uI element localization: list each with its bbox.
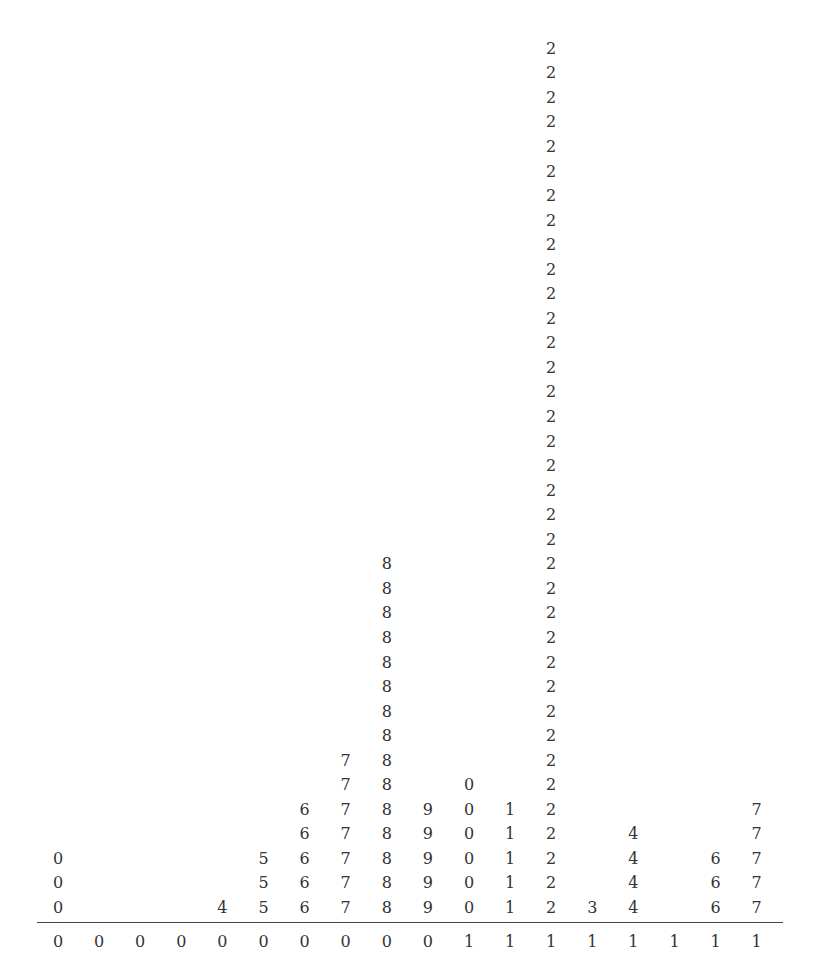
leaf-digit: 2 <box>536 162 566 182</box>
leaf-digit: 8 <box>372 677 402 697</box>
leaf-digit: 8 <box>372 873 402 893</box>
leaf-digit: 8 <box>372 849 402 869</box>
leaf-digit: 6 <box>290 898 320 918</box>
leaf-digit: 8 <box>372 775 402 795</box>
leaf-digit: 8 <box>372 628 402 648</box>
leaf-digit: 7 <box>742 898 772 918</box>
axis-stem-label: 0 <box>372 932 402 952</box>
leaf-digit: 2 <box>536 603 566 623</box>
leaf-digit: 9 <box>413 800 443 820</box>
leaf-digit: 2 <box>536 456 566 476</box>
leaf-digit: 6 <box>701 849 731 869</box>
leaf-digit: 2 <box>536 39 566 59</box>
axis-stem-label: 1 <box>742 932 772 952</box>
leaf-digit: 9 <box>413 849 443 869</box>
axis-stem-label: 0 <box>207 932 237 952</box>
leaf-digit: 5 <box>249 898 279 918</box>
leaf-digit: 0 <box>454 775 484 795</box>
leaf-digit: 2 <box>536 137 566 157</box>
leaf-digit: 0 <box>43 873 73 893</box>
leaf-digit: 2 <box>536 260 566 280</box>
leaf-digit: 7 <box>331 824 361 844</box>
leaf-digit: 4 <box>207 898 237 918</box>
leaf-digit: 1 <box>495 873 525 893</box>
leaf-digit: 4 <box>618 824 648 844</box>
axis-stem-label: 1 <box>701 932 731 952</box>
leaf-digit: 8 <box>372 800 402 820</box>
axis-stem-label: 1 <box>536 932 566 952</box>
leaf-digit: 5 <box>249 849 279 869</box>
leaf-digit: 3 <box>577 898 607 918</box>
leaf-digit: 2 <box>536 505 566 525</box>
leaf-digit: 2 <box>536 407 566 427</box>
leaf-digit: 2 <box>536 309 566 329</box>
axis-stem-label: 0 <box>166 932 196 952</box>
stacked-digit-plot: 0000000405550666660777777708888888888888… <box>0 0 820 980</box>
axis-stem-label: 1 <box>660 932 690 952</box>
leaf-digit: 1 <box>495 898 525 918</box>
leaf-digit: 4 <box>618 898 648 918</box>
leaf-digit: 2 <box>536 702 566 722</box>
leaf-digit: 6 <box>290 800 320 820</box>
leaf-digit: 4 <box>618 849 648 869</box>
leaf-digit: 2 <box>536 186 566 206</box>
leaf-digit: 6 <box>701 898 731 918</box>
leaf-digit: 4 <box>618 873 648 893</box>
leaf-digit: 6 <box>290 824 320 844</box>
axis-stem-label: 0 <box>413 932 443 952</box>
leaf-digit: 2 <box>536 579 566 599</box>
leaf-digit: 2 <box>536 63 566 83</box>
leaf-digit: 2 <box>536 211 566 231</box>
leaf-digit: 1 <box>495 849 525 869</box>
axis-stem-label: 0 <box>125 932 155 952</box>
axis-stem-label: 1 <box>577 932 607 952</box>
leaf-digit: 2 <box>536 554 566 574</box>
leaf-digit: 2 <box>536 775 566 795</box>
axis-stem-label: 0 <box>43 932 73 952</box>
leaf-digit: 8 <box>372 824 402 844</box>
leaf-digit: 9 <box>413 873 443 893</box>
leaf-digit: 2 <box>536 677 566 697</box>
leaf-digit: 2 <box>536 726 566 746</box>
leaf-digit: 0 <box>43 898 73 918</box>
axis-stem-label: 0 <box>290 932 320 952</box>
leaf-digit: 2 <box>536 88 566 108</box>
leaf-digit: 0 <box>454 898 484 918</box>
leaf-digit: 2 <box>536 898 566 918</box>
leaf-digit: 8 <box>372 898 402 918</box>
leaf-digit: 2 <box>536 333 566 353</box>
leaf-digit: 6 <box>290 873 320 893</box>
leaf-digit: 8 <box>372 603 402 623</box>
leaf-digit: 2 <box>536 530 566 550</box>
leaf-digit: 6 <box>290 849 320 869</box>
leaf-digit: 9 <box>413 824 443 844</box>
leaf-digit: 7 <box>742 800 772 820</box>
leaf-digit: 0 <box>454 824 484 844</box>
leaf-digit: 2 <box>536 432 566 452</box>
leaf-digit: 9 <box>413 898 443 918</box>
leaf-digit: 2 <box>536 358 566 378</box>
leaf-digit: 0 <box>454 873 484 893</box>
leaf-digit: 8 <box>372 726 402 746</box>
leaf-digit: 2 <box>536 284 566 304</box>
leaf-digit: 2 <box>536 849 566 869</box>
leaf-digit: 5 <box>249 873 279 893</box>
leaf-digit: 7 <box>331 775 361 795</box>
leaf-digit: 0 <box>454 849 484 869</box>
leaf-digit: 2 <box>536 800 566 820</box>
leaf-digit: 2 <box>536 751 566 771</box>
axis-stem-label: 0 <box>249 932 279 952</box>
leaf-digit: 8 <box>372 579 402 599</box>
leaf-digit: 8 <box>372 653 402 673</box>
axis-stem-label: 0 <box>84 932 114 952</box>
leaf-digit: 7 <box>331 800 361 820</box>
leaf-digit: 2 <box>536 382 566 402</box>
leaf-digit: 1 <box>495 824 525 844</box>
leaf-digit: 8 <box>372 751 402 771</box>
leaf-digit: 7 <box>331 898 361 918</box>
leaf-digit: 7 <box>742 824 772 844</box>
leaf-digit: 2 <box>536 628 566 648</box>
leaf-digit: 7 <box>742 873 772 893</box>
leaf-digit: 1 <box>495 800 525 820</box>
leaf-digit: 8 <box>372 554 402 574</box>
